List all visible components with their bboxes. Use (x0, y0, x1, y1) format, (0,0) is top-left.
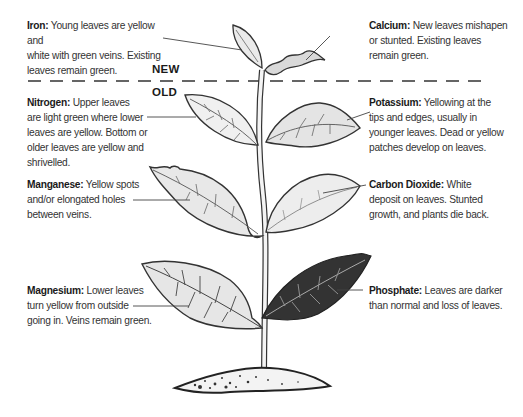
phosphate-leaf-icon (262, 254, 371, 320)
nitrogen-line: older leaves are yellow and shrivelled. (27, 142, 144, 168)
nitrogen-line: Upper leaves (73, 97, 130, 108)
manganese-title: Manganese: (27, 179, 83, 190)
soil-mound-icon (175, 368, 330, 393)
potassium-line: tips and edges, usually in (369, 112, 477, 123)
calcium-line: New leaves mishapen (413, 20, 508, 31)
calcium-title: Calcium: (369, 20, 410, 31)
calcium-note: Calcium: New leaves mishapen or stunted.… (369, 18, 509, 63)
nitrogen-title: Nitrogen: (27, 97, 70, 108)
calcium-line: remain green. (369, 50, 429, 61)
potassium-leaf-icon (266, 103, 360, 147)
potassium-line: Yellowing at the (424, 97, 491, 108)
phosphate-line: Leaves are darker (425, 285, 503, 296)
plant-nutrient-deficiency-diagram: NEW OLD Iron: Young leaves are yellow an… (0, 0, 523, 417)
nitrogen-leaf-icon (185, 95, 258, 145)
nitrogen-note: Nitrogen: Upper leaves are light green w… (27, 95, 187, 170)
iron-line: leaves remain green. (27, 65, 117, 76)
calcium-leaf-icon (265, 51, 325, 75)
magnesium-line: Lower leaves (87, 285, 144, 296)
carbon-dioxide-line: growth, and plants die back. (369, 209, 489, 220)
magnesium-line: turn yellow from outside (27, 300, 129, 311)
magnesium-title: Magnesium: (27, 285, 84, 296)
potassium-note: Potassium: Yellowing at the tips and edg… (369, 95, 519, 155)
carbon-dioxide-line: White (447, 179, 472, 190)
magnesium-note: Magnesium: Lower leaves turn yellow from… (27, 283, 177, 328)
magnesium-line: going in. Veins remain green. (27, 315, 152, 326)
nitrogen-line: are light green where lower (27, 112, 143, 123)
iron-line: white with green veins. Existing (27, 50, 161, 61)
manganese-note: Manganese: Yellow spots and/or elongated… (27, 177, 167, 222)
carbon-dioxide-line: deposit on leaves. Stunted (369, 194, 483, 205)
carbon-dioxide-title: Carbon Dioxide: (369, 179, 444, 190)
manganese-line: Yellow spots (86, 179, 139, 190)
manganese-line: and/or elongated holes (27, 194, 125, 205)
manganese-line: between veins. (27, 209, 91, 220)
nitrogen-line: leaves are yellow. Bottom or (27, 127, 147, 138)
iron-title: Iron: (27, 20, 48, 31)
phosphate-line: than normal and loss of leaves. (369, 300, 502, 311)
phosphate-title: Phosphate: (369, 285, 422, 296)
iron-note: Iron: Young leaves are yellow and white … (27, 18, 167, 78)
carbon-dioxide-note: Carbon Dioxide: White deposit on leaves.… (369, 177, 519, 222)
iron-leaf-icon (233, 25, 262, 68)
potassium-line: patches develop on leaves. (369, 142, 486, 153)
calcium-line: or stunted. Existing leaves (369, 35, 481, 46)
potassium-line: younger leaves. Dead or yellow (369, 127, 504, 138)
carbon-dioxide-leaf-icon (266, 174, 360, 233)
potassium-title: Potassium: (369, 97, 421, 108)
phosphate-note: Phosphate: Leaves are darker than normal… (369, 283, 519, 313)
